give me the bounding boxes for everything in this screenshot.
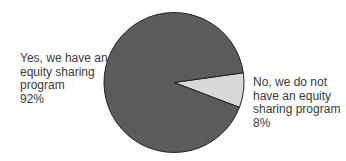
slice-label-yes: Yes, we have an equity sharing program 9… xyxy=(20,52,108,106)
slice-label-no: No, we do not have an equity sharing pro… xyxy=(253,76,340,130)
label-line: Yes, we have an xyxy=(20,52,108,66)
label-line: program xyxy=(20,79,108,93)
label-percent: 8% xyxy=(253,117,340,131)
label-line: have an equity xyxy=(253,90,340,104)
label-percent: 92% xyxy=(20,93,108,107)
label-line: sharing program xyxy=(253,103,340,117)
label-line: No, we do not xyxy=(253,76,340,90)
label-line: equity sharing xyxy=(20,66,108,80)
